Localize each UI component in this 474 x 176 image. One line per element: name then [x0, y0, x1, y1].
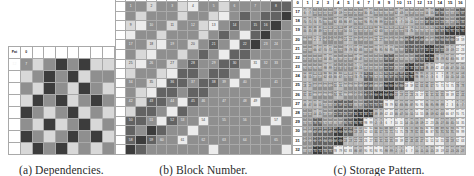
matrix-cell: [271, 145, 281, 155]
matrix-cell: [229, 88, 239, 98]
subcell-value: 91: [440, 132, 445, 136]
subcell-value: 31: [450, 122, 455, 126]
cell-subblock: 0123: [374, 118, 383, 126]
matrix-cell: [209, 126, 219, 136]
cell-subblock: 20212223: [313, 82, 322, 90]
matrix-cell: 37: [188, 78, 198, 88]
subcell-value: 63: [379, 30, 384, 34]
cell-subblock: 84858687: [384, 72, 393, 80]
matrix-cell: 96979899: [303, 35, 313, 44]
subcell-value: 27: [369, 141, 374, 145]
matrix-cell: [260, 11, 270, 21]
cell-subblock: 24252627: [374, 36, 383, 44]
matrix-cell: 24252627: [414, 90, 424, 99]
matrix-cell: [146, 107, 156, 117]
cell-subblock: 64656667: [405, 54, 414, 62]
cell-subblock: 20212223: [364, 36, 373, 44]
matrix-cell: 4567: [384, 118, 394, 127]
matrix-cell: [188, 30, 198, 40]
matrix-cell: [177, 88, 187, 98]
cell-subblock: 36373839: [395, 137, 404, 145]
matrix-cell: [177, 49, 187, 59]
matrix-cell: 46: [198, 97, 208, 107]
subcell-value: 7: [440, 76, 445, 80]
matrix-cell: 20212223: [445, 145, 455, 154]
subcell-value: 99: [308, 40, 313, 44]
cell-subblock: 4567: [344, 63, 353, 71]
matrix-cell: [281, 49, 291, 59]
subcell-value: 87: [358, 150, 363, 154]
matrix-cell: 60616263: [445, 8, 455, 17]
subcell-value: 59: [450, 141, 455, 145]
cell-subblock: 84858687: [313, 91, 322, 99]
subcell-value: 75: [409, 30, 414, 34]
subcell-value: 99: [440, 104, 445, 108]
subcell-value: 71: [328, 49, 333, 53]
subcell-value: 3: [450, 104, 455, 108]
subcell-value: 7: [318, 141, 323, 145]
cell-subblock: 4567: [364, 91, 373, 99]
subcell-value: 59: [358, 132, 363, 136]
cell-subblock: 72737475: [313, 17, 322, 25]
matrix-cell: 16171819: [343, 136, 353, 145]
cell-subblock: 0123: [425, 72, 434, 80]
matrix-cell: [44, 143, 56, 155]
subcell-value: 15: [328, 12, 333, 16]
matrix-cell: [209, 88, 219, 98]
cell-subblock: 40414243: [344, 54, 353, 62]
matrix-cell: [229, 126, 239, 136]
cell-subblock: 40414243: [364, 82, 373, 90]
matrix-cell: 32333435: [343, 81, 353, 90]
subcell-value: 27: [460, 150, 465, 154]
subcell-value: 23: [369, 40, 374, 44]
subcell-value: 39: [318, 30, 323, 34]
table-row: [115, 107, 291, 117]
subcell-value: 35: [308, 30, 313, 34]
cell-subblock: 36373839: [354, 82, 363, 90]
subcell-value: 19: [379, 67, 384, 71]
matrix-cell: 24252627: [364, 136, 374, 145]
cell-subblock: 92939495: [425, 100, 434, 108]
matrix-cell: 28293031: [374, 136, 384, 145]
matrix-cell: 88899091: [374, 44, 384, 53]
subcell-value: 7: [420, 49, 425, 53]
matrix-cell: [229, 145, 239, 155]
matrix-cell: [281, 40, 291, 50]
subcell-value: 71: [348, 76, 353, 80]
matrix-cell: [240, 145, 250, 155]
matrix-cell: 32333435: [303, 26, 313, 35]
matrix-cell: 24252627: [455, 145, 465, 154]
matrix-cell: [281, 59, 291, 69]
subcell-value: 79: [409, 132, 414, 136]
cell-subblock: 48495051: [364, 54, 373, 62]
matrix-cell: 64656667: [445, 109, 455, 118]
matrix-cell: 4567: [435, 72, 445, 81]
matrix-cell: [20, 107, 32, 119]
column-header-cell: 15: [445, 0, 455, 8]
table-row: 1718192021222324: [115, 40, 291, 50]
subcell-value: 15: [389, 95, 394, 99]
cell-subblock: 76777879: [415, 26, 424, 34]
matrix-cell: [271, 107, 281, 117]
table-row: 1745678910111213141516171819202122232425…: [293, 8, 466, 17]
matrix-cell: 52535455: [353, 26, 363, 35]
subcell-value: 71: [318, 150, 323, 154]
matrix-cell: 84858687: [435, 26, 445, 35]
matrix-cell: 68697071: [323, 44, 333, 53]
cell-subblock: 28293031: [384, 36, 393, 44]
matrix-cell: 16171819: [394, 90, 404, 99]
cell-subblock: 40414243: [323, 26, 332, 34]
subcell-value: 3: [358, 95, 363, 99]
subcell-value: 63: [348, 104, 353, 108]
matrix-cell: 92939495: [333, 90, 343, 99]
matrix-cell: [229, 135, 239, 145]
matrix-cell: 48495051: [455, 63, 465, 72]
cell-subblock: 24252627: [445, 17, 454, 25]
matrix-cell: [44, 95, 56, 107]
subcell-value: 11: [409, 21, 414, 25]
matrix-cell: [79, 107, 91, 119]
subcell-value: 43: [328, 30, 333, 34]
matrix-cell: [32, 107, 44, 119]
matrix-cell: 891011: [404, 17, 414, 26]
subcell-value: 3: [379, 122, 384, 126]
